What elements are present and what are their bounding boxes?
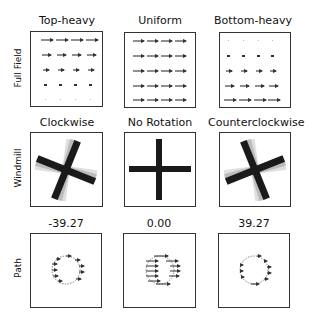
panel-title-no-rotation: No Rotation <box>124 116 196 129</box>
panel-title-bottom-heavy: Bottom-heavy <box>210 14 296 27</box>
panel-title-clockwise: Clockwise <box>31 116 103 129</box>
panel-title-path-pos: 39.27 <box>218 217 290 230</box>
quiver-top-heavy <box>31 32 102 106</box>
quiver-bottom-heavy <box>220 33 290 107</box>
panel-title-top-heavy: Top-heavy <box>31 14 103 27</box>
panel-uniform <box>124 32 196 108</box>
row-label-path: Path <box>13 251 23 285</box>
panel-title-uniform: Uniform <box>124 14 196 27</box>
panel-path-zero <box>123 233 196 308</box>
panel-title-counterclockwise: Counterclockwise <box>208 116 300 129</box>
panel-windmill-no-rotation <box>124 132 196 207</box>
path-circle-pos <box>219 234 289 307</box>
row-label-windmill: Windmill <box>13 148 23 188</box>
path-circle-neg <box>31 234 101 307</box>
windmill-no-rotation <box>125 133 195 206</box>
panel-path-pos <box>218 233 290 308</box>
panel-title-path-zero: 0.00 <box>123 217 195 230</box>
quiver-uniform <box>125 33 195 107</box>
panel-bottom-heavy <box>219 32 291 108</box>
windmill-counterclockwise <box>220 133 290 206</box>
path-circle-zero <box>124 234 195 307</box>
panel-title-path-neg: -39.27 <box>30 217 102 230</box>
panel-windmill-counterclockwise <box>219 132 291 207</box>
panel-windmill-clockwise <box>30 132 103 207</box>
panel-path-neg <box>30 233 102 308</box>
panel-top-heavy <box>30 31 103 107</box>
windmill-clockwise <box>31 133 102 206</box>
row-label-full-field: Full Field <box>13 46 23 90</box>
